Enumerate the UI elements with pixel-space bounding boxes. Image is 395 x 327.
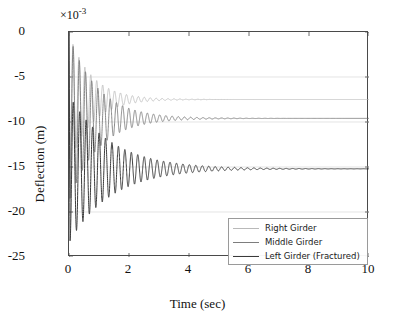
data-series-line [69,32,369,241]
y-axis-multiplier: ×10-3 [60,6,86,23]
y-tick-label: 0 [0,23,25,39]
x-tick-label: 0 [48,261,88,277]
y-axis-multiplier-exponent: -3 [79,6,87,16]
y-axis-multiplier-base: ×10 [60,8,79,22]
legend-item: Middle Girder [233,236,363,249]
legend-item: Left Girder (Fractured) [233,250,363,263]
legend-label: Right Girder [265,224,317,233]
x-axis-title: Time (sec) [0,296,395,312]
legend-line-swatch [233,242,259,243]
y-tick-label: -10 [0,113,25,129]
legend-line-swatch [233,256,259,257]
legend-label: Middle Girder [265,238,322,247]
chart-legend: Right GirderMiddle GirderLeft Girder (Fr… [228,218,368,265]
y-axis-title: Deflection (m) [32,125,48,202]
y-tick-label: -25 [0,248,25,264]
y-tick-label: -5 [0,68,25,84]
x-tick-label: 4 [168,261,208,277]
chart-figure: ×10-3 Deflection (m) Time (sec) 0-5-10-1… [0,0,395,327]
y-tick-label: -15 [0,158,25,174]
legend-item: Right Girder [233,222,363,235]
y-tick-label: -20 [0,203,25,219]
legend-line-swatch [233,228,259,229]
data-series-line [69,32,369,162]
legend-label: Left Girder (Fractured) [265,252,360,261]
x-tick-label: 2 [108,261,148,277]
